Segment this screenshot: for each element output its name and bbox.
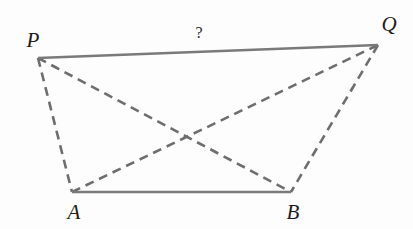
segment-AQ	[72, 45, 378, 192]
vertex-label-Q: Q	[381, 14, 396, 35]
unknown-length-label: ?	[195, 25, 202, 41]
vertex-label-P: P	[27, 30, 40, 51]
geometry-figure: P Q A B ?	[0, 0, 413, 229]
segment-PA	[38, 58, 72, 192]
figure-canvas	[0, 0, 413, 229]
vertex-label-A: A	[68, 202, 81, 223]
segment-PQ	[38, 45, 378, 58]
segment-PB	[38, 58, 291, 192]
vertex-label-B: B	[287, 202, 300, 223]
